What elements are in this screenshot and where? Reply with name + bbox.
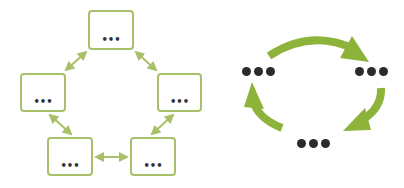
cycle-node-right xyxy=(355,67,388,76)
dot-icon xyxy=(242,67,251,76)
dot-icon xyxy=(321,139,330,148)
dot-icon xyxy=(254,67,263,76)
dot-icon xyxy=(309,139,318,148)
cycle-arrow-right-icon xyxy=(343,88,381,131)
cycle-arrows xyxy=(0,0,404,188)
cycle-arrow-left-icon xyxy=(244,82,282,128)
dot-icon xyxy=(297,139,306,148)
dot-icon xyxy=(266,67,275,76)
dot-icon xyxy=(367,67,376,76)
cycle-arrow-top-icon xyxy=(269,36,369,62)
dot-icon xyxy=(379,67,388,76)
cycle-node-left xyxy=(242,67,275,76)
dot-icon xyxy=(355,67,364,76)
cycle-node-bottom xyxy=(297,139,330,148)
